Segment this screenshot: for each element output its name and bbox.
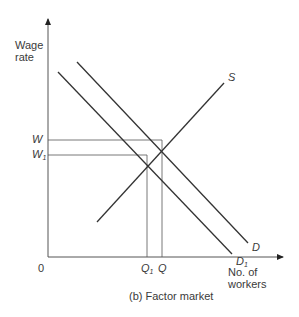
- w1-text: W: [32, 148, 42, 160]
- w1-subscript: 1: [42, 154, 46, 161]
- demand-curve-d1: [58, 72, 232, 254]
- demand1-curve-label: D1: [236, 255, 248, 271]
- tick-label-w: W: [32, 133, 42, 145]
- x-axis-label-line2: workers: [228, 278, 267, 290]
- y-axis-label-line1: Wage: [15, 39, 43, 51]
- origin-label: 0: [38, 262, 44, 274]
- tick-label-q1: Q1: [141, 262, 153, 278]
- d1-subscript: 1: [244, 261, 248, 268]
- supply-curve-label: S: [228, 71, 235, 83]
- demand-curve-label: D: [252, 241, 260, 253]
- y-axis-label-line2: rate: [15, 51, 43, 63]
- q-text: Q: [158, 262, 167, 274]
- q1-text: Q: [141, 262, 150, 274]
- tick-label-w1: W1: [32, 148, 46, 164]
- d1-text: D: [236, 255, 244, 267]
- w-text: W: [32, 133, 42, 145]
- y-axis-label: Wage rate: [15, 39, 43, 63]
- tick-label-q: Q: [158, 262, 167, 274]
- q1-subscript: 1: [150, 268, 154, 275]
- diagram-caption: (b) Factor market: [129, 290, 213, 302]
